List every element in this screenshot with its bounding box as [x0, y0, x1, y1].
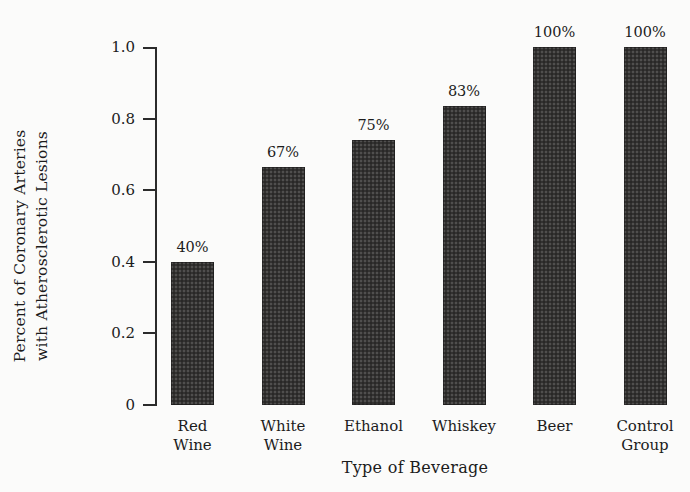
- bar: [624, 47, 667, 405]
- x-axis-category-label-line: Wine: [143, 436, 242, 455]
- x-axis-category-label: Beer: [505, 417, 604, 436]
- y-axis-tick: [143, 261, 156, 263]
- bar-value-label: 83%: [419, 84, 510, 99]
- y-axis-tick-label: 0: [95, 398, 135, 413]
- y-axis-cap-top: [143, 47, 157, 49]
- x-axis-category-label-line: Control: [596, 417, 690, 436]
- bar-value-label: 100%: [509, 25, 600, 40]
- bar-value-label: 75%: [328, 118, 419, 133]
- x-axis-category-label-line: Red: [143, 417, 242, 436]
- y-axis-tick: [143, 189, 156, 191]
- y-axis-title-line-2: with Atherosclerotic Lesions: [31, 130, 53, 363]
- x-axis-category-label: ControlGroup: [596, 417, 690, 455]
- y-axis-tick-label: 1.0: [95, 40, 135, 55]
- bar-value-label: 100%: [600, 25, 690, 40]
- plot-area: 40%RedWine67%WhiteWine75%Ethanol83%Whisk…: [0, 0, 690, 492]
- bar: [443, 106, 486, 405]
- y-axis-cap-bottom: [143, 404, 157, 406]
- x-axis-title: Type of Beverage: [155, 458, 675, 477]
- y-axis-tick-label: 0.4: [95, 255, 135, 270]
- y-axis-tick-label: 0.8: [95, 112, 135, 127]
- y-axis-title: Percent of Coronary Arteries with Athero…: [0, 0, 62, 492]
- x-axis-category-label-line: White: [234, 417, 333, 436]
- bar: [171, 262, 214, 405]
- x-axis-category-label: WhiteWine: [234, 417, 333, 455]
- bar-value-label: 40%: [147, 240, 238, 255]
- y-axis-tick-label: 0.2: [95, 326, 135, 341]
- y-axis-tick: [143, 332, 156, 334]
- x-axis-category-label: Ethanol: [324, 417, 423, 436]
- x-axis-category-label: RedWine: [143, 417, 242, 455]
- y-axis-title-line-1: Percent of Coronary Arteries: [9, 130, 31, 363]
- bar: [262, 167, 305, 405]
- bar: [533, 47, 576, 405]
- x-axis-category-label-line: Group: [596, 436, 690, 455]
- x-axis-category-label-line: Wine: [234, 436, 333, 455]
- y-axis-tick-label: 0.6: [95, 183, 135, 198]
- bar-value-label: 67%: [238, 145, 329, 160]
- y-axis-line: [155, 47, 157, 406]
- y-axis-tick: [143, 118, 156, 120]
- bar: [352, 140, 395, 405]
- x-axis-category-label-line: Whiskey: [415, 417, 514, 436]
- x-axis-category-label-line: Beer: [505, 417, 604, 436]
- x-axis-category-label: Whiskey: [415, 417, 514, 436]
- bar-chart-figure: Percent of Coronary Arteries with Athero…: [0, 0, 690, 492]
- x-axis-category-label-line: Ethanol: [324, 417, 423, 436]
